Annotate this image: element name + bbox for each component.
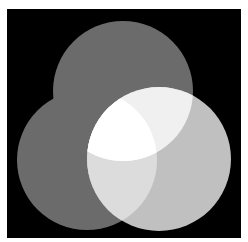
venn-diagram: [0, 0, 248, 242]
